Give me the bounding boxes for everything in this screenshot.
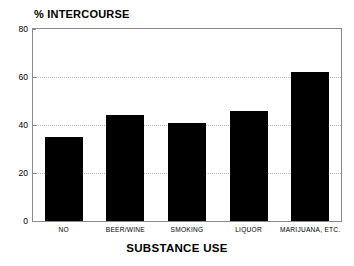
bar-slot [230,29,268,221]
y-axis-labels: 020406080 [0,28,28,222]
bar-slot [168,29,206,221]
x-axis-tick-label: MARIJUANA, ETC. [279,226,341,233]
bar[interactable] [230,111,268,221]
y-axis-tick-label: 40 [2,120,28,130]
bar[interactable] [168,123,206,221]
y-axis-tick-label: 20 [2,168,28,178]
bars-container [33,29,341,221]
y-axis-tick-label: 80 [2,24,28,34]
bar[interactable] [106,115,144,221]
bar-slot [45,29,83,221]
x-axis-tick-label: NO [33,226,95,233]
bar-slot [291,29,329,221]
y-axis-tick-mark [32,221,36,222]
bar[interactable] [291,72,329,221]
x-axis-tick-label: BEER/WINE [95,226,157,233]
y-axis-tick-label: 0 [2,216,28,226]
bar[interactable] [45,137,83,221]
x-axis-tick-label: SMOKING [156,226,218,233]
y-axis-tick-label: 60 [2,72,28,82]
x-axis-title: SUBSTANCE USE [0,242,354,254]
chart-title: % INTERCOURSE [34,8,130,20]
x-axis-tick-label: LIQUOR [218,226,280,233]
bar-slot [106,29,144,221]
x-axis-labels: NOBEER/WINESMOKINGLIQUORMARIJUANA, ETC. [33,226,341,240]
bar-chart: % INTERCOURSE 020406080 NOBEER/WINESMOKI… [0,0,354,266]
